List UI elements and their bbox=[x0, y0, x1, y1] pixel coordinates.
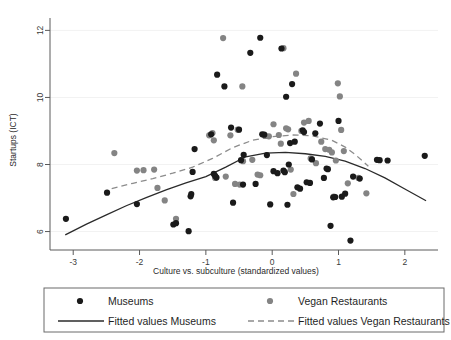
data-point-vegan-restaurant bbox=[329, 149, 335, 155]
data-point-vegan-restaurant bbox=[306, 118, 312, 124]
data-point-vegan-restaurant bbox=[220, 35, 226, 41]
y-tick-label: 8 bbox=[35, 162, 45, 167]
data-point-museum bbox=[321, 175, 327, 181]
data-point-museum bbox=[317, 120, 323, 126]
y-axis-title: Startups (ICT) bbox=[8, 113, 18, 167]
data-point-museum bbox=[325, 166, 331, 172]
data-point-museum bbox=[307, 180, 313, 186]
data-point-museum bbox=[286, 161, 292, 167]
data-point-museum bbox=[384, 157, 390, 163]
data-point-museum bbox=[422, 153, 428, 159]
data-point-museum bbox=[347, 238, 353, 244]
data-point-vegan-restaurant bbox=[293, 71, 299, 77]
data-point-museum bbox=[289, 81, 295, 87]
data-point-vegan-restaurant bbox=[318, 139, 324, 145]
data-point-museum bbox=[292, 139, 298, 145]
data-point-museum bbox=[350, 173, 356, 179]
data-point-museum bbox=[236, 127, 242, 133]
data-point-vegan-restaurant bbox=[227, 132, 233, 138]
data-point-museum bbox=[312, 130, 318, 136]
y-tick-label: 12 bbox=[35, 25, 45, 35]
legend-marker-museums bbox=[77, 298, 83, 304]
data-point-museum bbox=[282, 169, 288, 175]
data-point-museum bbox=[63, 216, 69, 222]
data-point-vegan-restaurant bbox=[140, 167, 146, 173]
data-point-museum bbox=[342, 191, 348, 197]
data-point-museum bbox=[221, 83, 227, 89]
data-point-museum bbox=[283, 94, 289, 100]
data-point-museum bbox=[267, 201, 273, 207]
data-point-museum bbox=[261, 132, 267, 138]
y-tick-label: 6 bbox=[35, 229, 45, 234]
data-point-museum bbox=[214, 72, 220, 78]
data-point-museum bbox=[257, 35, 263, 41]
data-point-museum bbox=[297, 186, 303, 192]
legend-marker-vegan-restaurants bbox=[267, 298, 273, 304]
data-point-museum bbox=[208, 131, 214, 137]
data-point-vegan-restaurant bbox=[335, 80, 341, 86]
data-point-museum bbox=[240, 182, 246, 188]
legend-label-museums: Museums bbox=[108, 295, 154, 307]
data-point-museum bbox=[309, 156, 315, 162]
legend[interactable]: Museums Vegan Restaurants Fitted values … bbox=[44, 288, 450, 332]
data-point-museum bbox=[188, 191, 194, 197]
y-tick-label: 10 bbox=[35, 92, 45, 102]
data-point-vegan-restaurant bbox=[257, 172, 263, 178]
scatter-plot-svg: 681012-3-2-1012 Startups (ICT) Culture v… bbox=[0, 0, 451, 340]
data-point-museum bbox=[278, 45, 284, 51]
data-point-museum bbox=[190, 169, 196, 175]
data-point-vegan-restaurant bbox=[211, 137, 217, 143]
data-point-museum bbox=[274, 170, 280, 176]
legend-label-fitted-museums: Fitted values Museums bbox=[108, 315, 216, 327]
data-point-museum bbox=[241, 152, 247, 158]
data-point-museum bbox=[264, 152, 270, 158]
data-point-museum bbox=[335, 118, 341, 124]
data-point-museum bbox=[327, 223, 333, 229]
data-point-museum bbox=[284, 202, 290, 208]
data-point-museum bbox=[301, 129, 307, 135]
data-point-vegan-restaurant bbox=[345, 180, 351, 186]
data-point-vegan-restaurant bbox=[134, 167, 140, 173]
data-point-vegan-restaurant bbox=[341, 148, 347, 154]
data-point-museum bbox=[238, 157, 244, 163]
data-point-museum bbox=[134, 201, 140, 207]
data-point-museum bbox=[247, 50, 253, 56]
data-point-museum bbox=[213, 174, 219, 180]
x-tick-label: -2 bbox=[136, 257, 144, 267]
data-point-vegan-restaurant bbox=[270, 121, 276, 127]
data-point-museum bbox=[230, 200, 236, 206]
data-point-museum bbox=[253, 181, 259, 187]
data-point-museum bbox=[377, 157, 383, 163]
data-point-vegan-restaurant bbox=[249, 157, 255, 163]
data-point-museum bbox=[228, 125, 234, 131]
data-point-vegan-restaurant bbox=[338, 127, 344, 133]
data-point-vegan-restaurant bbox=[151, 166, 157, 172]
data-point-vegan-restaurant bbox=[111, 150, 117, 156]
data-point-museum bbox=[173, 220, 179, 226]
data-point-vegan-restaurant bbox=[333, 157, 339, 163]
x-axis-title: Culture vs. subculture (standardized val… bbox=[153, 266, 319, 276]
data-point-vegan-restaurant bbox=[290, 191, 296, 197]
data-point-museum bbox=[332, 194, 338, 200]
data-point-vegan-restaurant bbox=[154, 185, 160, 191]
data-point-vegan-restaurant bbox=[162, 197, 168, 203]
data-point-museum bbox=[104, 190, 110, 196]
data-point-vegan-restaurant bbox=[223, 173, 229, 179]
data-point-vegan-restaurant bbox=[285, 126, 291, 132]
data-point-vegan-restaurant bbox=[276, 132, 282, 138]
data-point-museum bbox=[186, 228, 192, 234]
data-point-vegan-restaurant bbox=[239, 83, 245, 89]
data-point-vegan-restaurant bbox=[363, 190, 369, 196]
legend-label-vegan-restaurants: Vegan Restaurants bbox=[298, 295, 387, 307]
x-tick-label: 2 bbox=[402, 257, 407, 267]
data-point-vegan-restaurant bbox=[278, 141, 284, 147]
x-tick-label: -3 bbox=[69, 257, 77, 267]
legend-label-fitted-vegan-restaurants: Fitted values Vegan Restaurants bbox=[298, 315, 450, 327]
x-tick-label: 1 bbox=[336, 257, 341, 267]
data-point-museum bbox=[357, 175, 363, 181]
data-point-vegan-restaurant bbox=[337, 93, 343, 99]
chart-figure: 681012-3-2-1012 Startups (ICT) Culture v… bbox=[0, 0, 451, 340]
data-point-museum bbox=[191, 146, 197, 152]
